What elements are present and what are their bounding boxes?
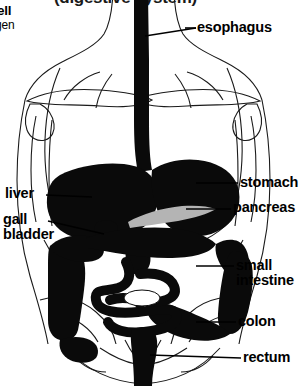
anatomy-illustration (0, 0, 307, 391)
left-rib-upper-1 (64, 72, 100, 100)
left-humerus-outline (31, 116, 36, 222)
leader-line-rectum (150, 355, 241, 358)
esophagus-organ (134, 0, 152, 172)
left-clavicle-outline (27, 89, 152, 106)
label-stomach: stomach (240, 175, 298, 190)
digestive-system-diagram: (digestive system) ell gen (0, 0, 307, 391)
left-scapula-outline (26, 104, 55, 141)
leader-line-esophagus (145, 28, 196, 36)
small-intestine-inner-space (124, 290, 160, 306)
organ-group (47, 0, 253, 386)
right-clavicle-outline (135, 89, 260, 106)
right-rib-upper-1 (187, 72, 223, 100)
neck-and-left-shoulder-outline (25, 0, 113, 100)
label-esophagus: esophagus (197, 20, 272, 35)
label-rectum: rectum (243, 350, 290, 365)
neck-and-right-shoulder-outline (174, 0, 262, 100)
label-small-intestine: smallintestine (236, 258, 294, 288)
right-scapula-outline (233, 104, 262, 141)
label-small-intestine-line1: small (236, 257, 272, 273)
label-liver: liver (5, 186, 34, 201)
label-small-intestine-line2: intestine (236, 272, 294, 288)
label-pancreas: pancreas (233, 200, 295, 215)
cecum (59, 337, 98, 363)
rectum-organ (131, 327, 157, 386)
label-colon: colon (238, 314, 276, 329)
stomach-organ (151, 159, 239, 236)
label-gall-bladder-line1: gall (3, 211, 27, 227)
label-gall-bladder: gallbladder (3, 212, 54, 242)
hip-socket-right (181, 356, 213, 372)
label-gall-bladder-line2: bladder (3, 226, 54, 242)
